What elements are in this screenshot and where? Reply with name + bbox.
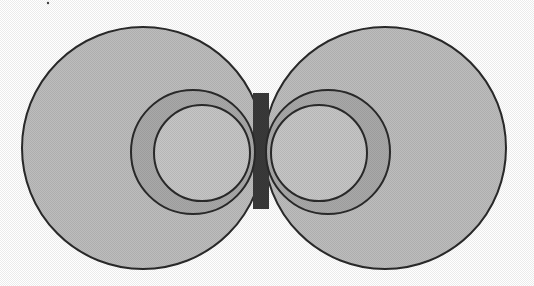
right-inner-circle — [271, 105, 367, 201]
dipole-diagram — [0, 0, 534, 286]
stray-mark — [47, 2, 49, 4]
right-inner-rings — [266, 90, 390, 214]
left-inner-circle — [154, 105, 250, 201]
left-inner-rings — [131, 90, 255, 214]
